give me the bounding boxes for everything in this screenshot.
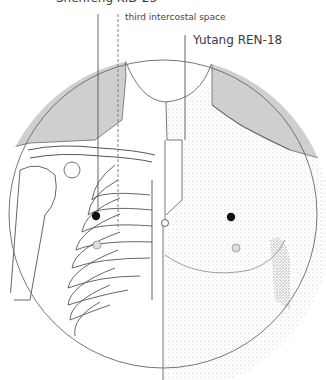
right-chest-point: [227, 213, 235, 221]
left-chest-point: [92, 212, 100, 220]
right-nipple: [232, 244, 240, 252]
left-nipple: [93, 241, 101, 249]
yutang-point: [162, 220, 169, 227]
anatomy-illustration: [0, 0, 326, 380]
